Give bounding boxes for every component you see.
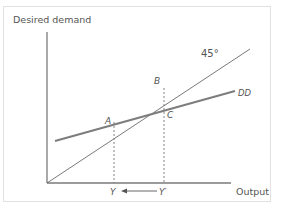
arrow-head-icon: [121, 189, 127, 194]
y-axis-label: Desired demand: [13, 14, 91, 25]
keynesian-cross-diagram: Desired demand Output 45° DD A B C Y Y′: [0, 0, 287, 208]
dd-line: [55, 91, 235, 141]
point-c-label: C: [167, 110, 174, 120]
point-a-label: A: [104, 116, 111, 126]
y-marker-label: Y: [110, 187, 117, 197]
y-prime-marker-label: Y′: [159, 187, 167, 197]
x-axis-label: Output: [236, 186, 269, 197]
line-45-label: 45°: [201, 48, 219, 59]
dd-label: DD: [238, 88, 252, 98]
point-b-label: B: [154, 76, 160, 86]
